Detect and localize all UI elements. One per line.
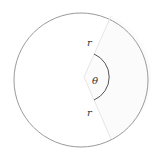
angle-label-theta: θ [92, 75, 98, 86]
radius-label-bottom: r [87, 107, 93, 118]
radius-label-top: r [87, 37, 93, 48]
diagram-canvas: r θ r [0, 0, 158, 160]
